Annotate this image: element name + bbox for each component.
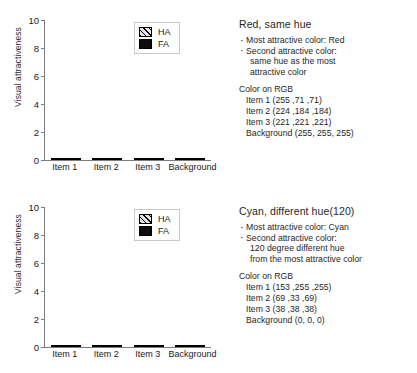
x-label-item-3: Item 3 bbox=[127, 349, 169, 359]
annotation-bullets: Most attractive color: Cyan Second attra… bbox=[239, 222, 417, 264]
y-axis-title: Visual attractiveness bbox=[13, 7, 23, 127]
x-label-background: Background bbox=[169, 349, 211, 359]
bar-slot bbox=[87, 207, 129, 347]
y-tick: 2 bbox=[25, 123, 45, 141]
rgb-line-item-2: Item 2 (69 ,33 ,69) bbox=[239, 293, 417, 304]
legend-label-ha: HA bbox=[158, 214, 171, 224]
y-tick: 6 bbox=[25, 254, 45, 272]
annotation-title: Cyan, different hue(120) bbox=[239, 205, 417, 217]
panel-cyan-different-hue: Visual attractiveness 10 8 6 4 2 0 HA bbox=[0, 187, 417, 373]
bar-item-3[interactable] bbox=[134, 345, 164, 347]
bar-segment-fa bbox=[92, 346, 122, 347]
legend-label-ha: HA bbox=[158, 27, 171, 37]
legend-swatch-fa-icon bbox=[139, 39, 152, 49]
legend: HA FA bbox=[134, 22, 180, 54]
y-tick: 8 bbox=[25, 226, 45, 244]
y-tick: 4 bbox=[25, 95, 45, 113]
x-label-item-2: Item 2 bbox=[86, 349, 128, 359]
bar-segment-fa bbox=[134, 159, 164, 160]
x-label-item-1: Item 1 bbox=[44, 162, 86, 172]
rgb-line-background: Background (255, 255, 255) bbox=[239, 128, 417, 139]
legend-swatch-ha-icon bbox=[139, 214, 152, 224]
rgb-heading: Color on RGB bbox=[239, 84, 417, 95]
x-label-item-1: Item 1 bbox=[44, 349, 86, 359]
rgb-line-item-1: Item 1 (153 ,255 ,255) bbox=[239, 282, 417, 293]
annotation-bullets: Most attractive color: Red Second attrac… bbox=[239, 35, 417, 77]
plot-area: 10 8 6 4 2 0 HA FA bbox=[44, 207, 211, 348]
bar-slot bbox=[45, 20, 87, 160]
bar-group bbox=[45, 20, 211, 160]
legend-label-fa: FA bbox=[158, 226, 169, 236]
rgb-line-item-3: Item 3 (38 ,38 ,38) bbox=[239, 304, 417, 315]
y-tick: 0 bbox=[25, 151, 45, 169]
y-tick: 6 bbox=[25, 67, 45, 85]
bar-segment-fa bbox=[134, 345, 164, 347]
annotation-red-same-hue: Red, same hue Most attractive color: Red… bbox=[239, 18, 417, 139]
rgb-heading: Color on RGB bbox=[239, 271, 417, 282]
bar-group bbox=[45, 207, 211, 347]
y-tick: 10 bbox=[25, 198, 45, 216]
bar-item-3[interactable] bbox=[134, 158, 164, 160]
rgb-line-item-3: Item 3 (221 ,221 ,221) bbox=[239, 117, 417, 128]
annotation-title: Red, same hue bbox=[239, 18, 417, 30]
annotation-bullet: Most attractive color: Cyan bbox=[239, 222, 417, 233]
annotation-bullet: Second attractive color: same hue as the… bbox=[239, 46, 417, 78]
x-label-item-3: Item 3 bbox=[127, 162, 169, 172]
y-tick: 2 bbox=[25, 310, 45, 328]
legend-swatch-ha-icon bbox=[139, 27, 152, 37]
legend: HA FA bbox=[134, 209, 180, 241]
x-label-item-2: Item 2 bbox=[86, 162, 128, 172]
bar-background[interactable] bbox=[175, 158, 205, 160]
legend-swatch-fa-icon bbox=[139, 226, 152, 236]
rgb-line-item-1: Item 1 (255 ,71 ,71) bbox=[239, 95, 417, 106]
rgb-line-item-2: Item 2 (224 ,184 ,184) bbox=[239, 106, 417, 117]
annotation-bullet: Second attractive color: 120 degree diff… bbox=[239, 233, 417, 265]
x-label-background: Background bbox=[169, 162, 211, 172]
bar-slot bbox=[45, 207, 87, 347]
chart-cyan-different-hue: Visual attractiveness 10 8 6 4 2 0 HA bbox=[0, 187, 222, 373]
annotation-cyan-different-hue: Cyan, different hue(120) Most attractive… bbox=[239, 205, 417, 326]
bar-item-1[interactable] bbox=[51, 158, 81, 160]
y-tick: 4 bbox=[25, 282, 45, 300]
bar-segment-fa bbox=[175, 159, 205, 160]
bar-segment-fa bbox=[51, 159, 81, 160]
bar-segment-fa bbox=[175, 346, 205, 347]
y-tick: 8 bbox=[25, 39, 45, 57]
panel-red-same-hue: Visual attractiveness 10 8 6 4 2 0 HA bbox=[0, 0, 417, 186]
bar-item-2[interactable] bbox=[92, 158, 122, 160]
bar-segment-fa bbox=[51, 346, 81, 347]
plot-area: 10 8 6 4 2 0 HA FA bbox=[44, 20, 211, 161]
bar-item-2[interactable] bbox=[92, 345, 122, 347]
y-tick: 0 bbox=[25, 338, 45, 356]
bar-background[interactable] bbox=[175, 345, 205, 347]
legend-label-fa: FA bbox=[158, 39, 169, 49]
bar-item-1[interactable] bbox=[51, 345, 81, 347]
bar-slot bbox=[87, 20, 129, 160]
annotation-bullet: Most attractive color: Red bbox=[239, 35, 417, 46]
y-tick: 10 bbox=[25, 11, 45, 29]
rgb-line-background: Background (0, 0, 0) bbox=[239, 315, 417, 326]
bar-segment-fa bbox=[92, 159, 122, 160]
x-axis-labels: Item 1 Item 2 Item 3 Background bbox=[44, 349, 210, 359]
legend-row-fa: FA bbox=[139, 38, 171, 50]
legend-row-fa: FA bbox=[139, 225, 171, 237]
legend-row-ha: HA bbox=[139, 213, 171, 225]
legend-row-ha: HA bbox=[139, 26, 171, 38]
x-axis-labels: Item 1 Item 2 Item 3 Background bbox=[44, 162, 210, 172]
y-axis-title: Visual attractiveness bbox=[13, 194, 23, 314]
chart-red-same-hue: Visual attractiveness 10 8 6 4 2 0 HA bbox=[0, 0, 222, 186]
